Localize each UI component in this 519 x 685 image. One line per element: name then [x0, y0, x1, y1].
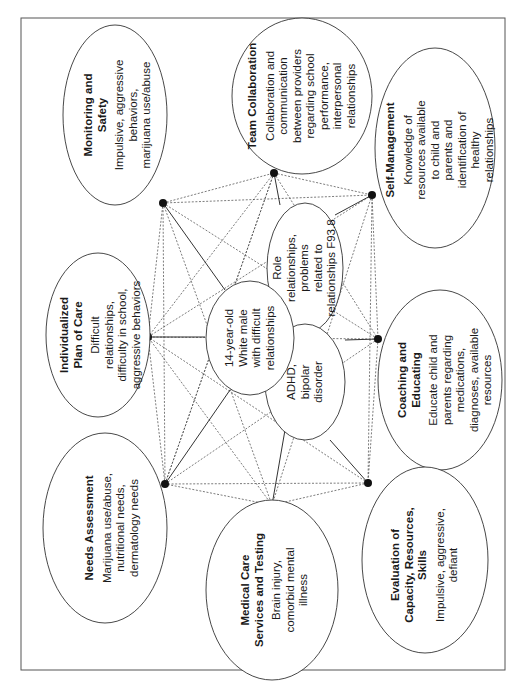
label-individualized-plan: Individualized Plan of Care Difficult re…	[58, 281, 143, 390]
label-role-relationships: Role relationships, problems related to …	[271, 219, 339, 316]
label-team-collaboration: Team Collaboration Collaboration and com…	[246, 43, 358, 150]
label-evaluation: Evaluation of Capacity, Resources, Skill…	[389, 507, 461, 622]
label-coaching-educating: Coaching and Educating Educate child and…	[396, 328, 495, 432]
label-needs-assessment: Needs Assessment Marijuana use/abuse, nu…	[83, 473, 141, 583]
label-patient: 14-year-old White male with difficult re…	[223, 306, 277, 371]
label-adhd-bipolar: ADHD, bipolar disorder	[285, 361, 326, 403]
label-monitoring-safety: Monitoring and Safety Impulsive, aggress…	[82, 60, 154, 171]
label-medical-care: Medical Care Services and Testing Brain …	[239, 533, 311, 647]
label-self-management: Self-Management Knowledge of resources a…	[384, 100, 496, 199]
